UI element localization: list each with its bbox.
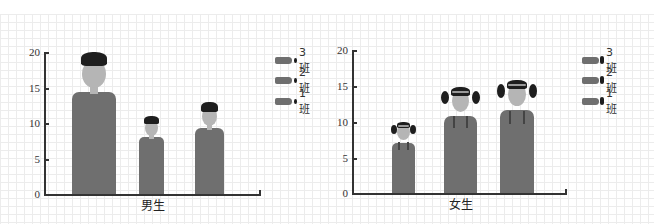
girl-strap [398,142,400,150]
x-axis-end-tick [565,189,567,194]
y-tick-label: 20 [328,44,348,56]
girl-body [444,116,477,193]
legend-item-class2: 2班 [582,74,621,86]
girl-strap [523,111,525,124]
girl-headband [398,125,409,127]
girl-figure-bar [392,122,415,193]
girl-strap [453,116,455,128]
y-tick [352,158,357,160]
girl-pigtail [410,125,416,134]
girl-pigtail [497,84,505,98]
y-tick-label: 15 [328,80,348,92]
girl-legend-icon [582,57,599,64]
girl-headband [508,84,526,86]
legend-item-class1: 1班 [582,95,621,107]
girl-body [500,110,534,193]
y-tick [352,122,357,124]
y-tick-label: 0 [328,187,348,199]
y-tick-label: 5 [328,152,348,164]
y-tick [352,86,357,88]
y-tick-label: 10 [328,116,348,128]
girl-figure-bar [444,87,477,193]
girls-chart: 20 15 10 5 0 女生 [0,0,654,224]
girl-head-icon [600,76,604,84]
y-tick [352,50,357,52]
girl-pigtail [472,91,480,104]
girl-headband [452,91,469,93]
girl-legend-icon [582,98,599,105]
girl-pigtail [529,84,537,98]
girl-pigtail [441,91,449,104]
girl-strap [407,142,409,150]
girl-figure-bar [500,80,534,193]
girl-strap [466,116,468,128]
girl-body [392,143,415,193]
legend-item-class3: 3班 [582,54,621,66]
girl-head-icon [600,56,604,64]
girl-head-icon [600,97,604,105]
x-axis-label: 女生 [449,195,473,212]
girl-legend-icon [582,77,599,84]
girl-strap [509,111,511,124]
